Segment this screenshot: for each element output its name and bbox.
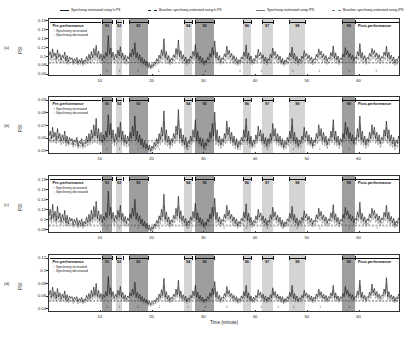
arrow-legend-increase-label: Synchrony increased [56,186,87,190]
panel-b: (b)PSI0.050.060.070.080.09S1S2S3S4S5S6S7… [0,96,407,172]
y-tick-label: 0.06 [38,135,46,140]
synchrony-decrease-arrow [158,304,161,309]
x-tick-mark [152,310,153,312]
x-tick-mark [255,310,256,312]
post-performance-label: Post-performance [357,101,391,106]
y-tick-label: 0.06 [38,71,46,76]
x-tick-label: 20 [149,156,154,161]
x-tick-label: 60 [356,314,361,319]
y-tick-label: 0.16 [38,187,46,192]
y-tick-label: 0.05 [38,148,46,153]
arrow-legend: ↑Synchrony increased↓Synchrony decreased [52,107,88,116]
segment-label-S3: S3 [125,181,152,185]
synchrony-decrease-arrow [376,225,379,230]
x-tick-label: 10 [97,78,102,83]
segment-rule-S3 [129,22,148,23]
synchrony-decrease-arrow [204,304,207,309]
synchrony-decrease-arrow [118,304,121,309]
segment-rule-S6 [243,179,251,180]
segment-rule-S1 [102,22,111,23]
synchrony-decrease-arrow [319,304,322,309]
synchrony-decrease-arrow [137,225,140,230]
segment-rule-S6 [243,100,251,101]
segment-label-S7: S7 [258,181,277,185]
x-tick-mark [100,74,101,76]
synchrony-decrease-arrow [245,225,248,230]
segment-rule-S2 [116,258,123,259]
segment-label-S5: S5 [191,181,217,185]
synchrony-decrease-arrow [186,304,189,309]
synchrony-decrease-arrow [106,68,109,73]
segment-rule-S5 [195,100,213,101]
segment-rule-S5 [195,179,213,180]
x-tick-label: 20 [149,314,154,319]
post-performance-label: Post-performance [357,259,391,264]
arrow-legend-decrease-label: Synchrony decreased [56,190,88,194]
segment-rule-S8 [289,179,305,180]
panel-d: (d)PSI0.040.060.080.10.12S1S2S3S4S5S6S7S… [0,254,407,330]
y-tick-label: 0.12 [38,255,46,260]
segment-label-S9: S9 [338,181,359,185]
synchrony-decrease-arrow [204,68,207,73]
segment-label-S9: S9 [338,24,359,28]
x-tick-label: 60 [356,78,361,83]
segment-label-S6: S6 [239,24,255,28]
plot-area: S1S2S3S4S5S6S7S8S9Pre-performancePost-pe… [48,254,400,312]
y-axis-label: PSI [18,283,23,290]
segment-label-S8: S8 [285,24,309,28]
y-tick-label: 0.16 [38,27,46,32]
synchrony-decrease-arrow [226,304,229,309]
figure-root: Synchrony estimated using h-PSBaseline s… [0,0,407,350]
legend-swatch-1 [148,10,157,11]
segment-rule-S2 [116,22,123,23]
synchrony-decrease-arrow [292,68,295,73]
x-tick-label: 50 [304,78,309,83]
y-tick-label: 0.12 [38,45,46,50]
panel-tag: (d) [4,281,9,286]
synchrony-decrease-arrow [137,68,140,73]
arrow-legend-decrease: ↓Synchrony decreased [52,111,88,115]
x-tick-mark [203,74,204,76]
segment-rule-S5 [195,258,213,259]
segment-rule-S9 [342,258,355,259]
synchrony-decrease-arrow [277,304,280,309]
synchrony-decrease-arrow [348,146,351,151]
segment-label-S9: S9 [338,260,359,264]
synchrony-decrease-arrow [296,225,299,230]
segment-rule-S6 [243,22,251,23]
legend-swatch-2 [256,10,265,11]
segment-rule-S9 [342,22,355,23]
y-tick-group: 0.060.080.10.120.140.160.18 [24,18,46,76]
segment-rule-S2 [116,179,123,180]
synchrony-decrease-arrow [266,225,269,230]
x-tick-label: 40 [253,235,258,240]
legend-label-1: Baseline synchrony estimated using h-PS [159,8,222,13]
x-tick-mark [307,310,308,312]
synchrony-decrease-arrow [375,68,378,73]
y-axis-label: PSI [18,125,23,132]
segment-label-S7: S7 [258,24,277,28]
segment-rule-S7 [262,100,273,101]
y-tick-group: 0.050.060.070.080.09 [24,96,46,154]
y-tick-label: 0.12 [38,207,46,212]
synchrony-decrease-arrow [318,68,321,73]
y-tick-label: 0.08 [38,281,46,286]
plot-area: S1S2S3S4S5S6S7S8S9Pre-performancePost-pe… [48,175,400,233]
x-tick-label: 20 [149,78,154,83]
synchrony-decrease-arrow [186,225,189,230]
pre-performance-label: Pre-performance [52,180,84,185]
synchrony-decrease-arrow [157,68,160,73]
x-tick-mark [152,74,153,76]
y-tick-label: 0.07 [38,123,46,128]
y-tick-label: 0.14 [38,36,46,41]
segment-label-S7: S7 [258,260,277,264]
panel-a: (a)PSI0.060.080.10.120.140.160.18S1S2S3S… [0,18,407,94]
y-axis-label: PSI [18,47,23,54]
synchrony-decrease-arrow [281,225,284,230]
segment-rule-S8 [289,22,305,23]
segment-rule-S1 [102,179,111,180]
arrow-legend: ↑Synchrony increased↓Synchrony decreased [52,29,88,38]
y-tick-label: 0.08 [38,110,46,115]
x-tick-label: 30 [201,156,206,161]
synchrony-decrease-arrow [348,225,351,230]
